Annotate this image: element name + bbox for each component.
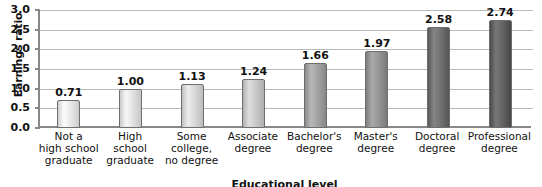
x-axis-label-line: graduate	[38, 155, 99, 167]
y-axis-tick-label: 2.5	[2, 23, 30, 36]
earnings-ratio-bar-chart: Earnings ratio 0.711.001.131.241.661.972…	[0, 0, 542, 187]
x-axis-labels: Not ahigh schoolgraduateHighschoolgradua…	[38, 131, 531, 166]
x-axis-category-label: Highschoolgraduate	[99, 131, 160, 166]
y-axis-tick-label: 0.0	[2, 121, 30, 134]
bar-value-label: 1.66	[302, 49, 329, 62]
x-axis-category-label: Associatedegree	[222, 131, 283, 166]
x-axis-category-label: Doctoraldegree	[406, 131, 467, 166]
y-axis-tick-label: 2.0	[2, 42, 30, 55]
x-axis-label-line: degree	[345, 143, 406, 155]
x-axis-category-label: Not ahigh schoolgraduate	[38, 131, 99, 166]
bar-slot: 1.13	[161, 10, 223, 128]
x-axis-category-label: Somecollege,no degree	[161, 131, 222, 166]
bar-slot: 2.74	[469, 10, 531, 128]
y-axis-tick-label: 0.5	[2, 101, 30, 114]
x-axis-category-label: Master'sdegree	[345, 131, 406, 166]
x-axis-label-line: graduate	[99, 155, 160, 167]
bar-slot: 2.58	[408, 10, 470, 128]
y-axis-tick-label: 1.5	[2, 62, 30, 75]
bar[interactable]: 1.00	[119, 89, 142, 128]
x-axis-title: Educational level	[38, 178, 531, 187]
bar[interactable]: 1.13	[181, 84, 204, 128]
x-axis-label-line: degree	[468, 143, 531, 155]
y-axis-tick-label: 3.0	[2, 3, 30, 16]
x-axis-label-line: degree	[222, 143, 283, 155]
bar[interactable]: 1.24	[242, 79, 265, 128]
x-axis-label-line: degree	[284, 143, 345, 155]
bar-series: 0.711.001.131.241.661.972.582.74	[38, 10, 531, 128]
bar-value-label: 1.97	[363, 37, 390, 50]
bar[interactable]: 1.97	[365, 51, 388, 128]
bar-slot: 0.71	[38, 10, 100, 128]
bar-value-label: 1.00	[117, 75, 144, 88]
x-axis-label-line: school	[99, 143, 160, 155]
bar-slot: 1.97	[346, 10, 408, 128]
x-axis-label-line: no degree	[161, 155, 222, 167]
bar[interactable]: 2.58	[427, 27, 450, 128]
bar-value-label: 2.74	[487, 6, 514, 19]
bar-value-label: 1.24	[240, 65, 267, 78]
bar-value-label: 0.71	[55, 86, 82, 99]
bar-value-label: 2.58	[425, 13, 452, 26]
bar-slot: 1.66	[285, 10, 347, 128]
bar-value-label: 1.13	[178, 70, 205, 83]
x-axis-label-line: college,	[161, 143, 222, 155]
bar-slot: 1.24	[223, 10, 285, 128]
bar[interactable]: 0.71	[57, 100, 80, 128]
x-axis-category-label: Bachelor'sdegree	[284, 131, 345, 166]
bar[interactable]: 2.74	[489, 20, 512, 128]
bar[interactable]: 1.66	[304, 63, 327, 128]
x-axis-category-label: Professionaldegree	[468, 131, 531, 166]
y-axis-tick-label: 1.0	[2, 82, 30, 95]
bar-slot: 1.00	[100, 10, 162, 128]
x-axis-label-line: high school	[38, 143, 99, 155]
x-axis-label-line: degree	[406, 143, 467, 155]
